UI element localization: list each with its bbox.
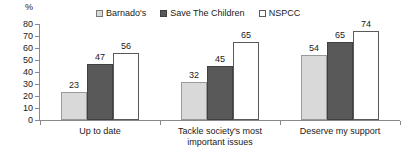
x-axis-separator-tick — [400, 121, 401, 125]
chart-legend: Barnado's Save The Children NSPCC — [96, 6, 396, 20]
y-axis-tick-mark — [35, 60, 39, 61]
x-axis-category-labels: Up to dateTackle society's mostimportant… — [40, 126, 400, 154]
bar-value-label: 47 — [83, 53, 117, 62]
x-axis-line — [39, 120, 400, 121]
bar-value-label: 56 — [109, 42, 143, 51]
bar-value-label: 45 — [203, 55, 237, 64]
y-axis-tick-label: 60 — [23, 44, 33, 53]
bar[interactable] — [207, 66, 233, 120]
plot-area: 234756324565546574 — [40, 24, 400, 120]
y-axis-tick-label: 70 — [23, 32, 33, 41]
bar[interactable] — [301, 55, 327, 120]
bar-group: 324565 — [181, 24, 259, 120]
x-axis-category-label-line: Deserve my support — [280, 126, 400, 137]
bar-chart: % Barnado's Save The Children NSPCC 8070… — [0, 0, 411, 155]
bar[interactable] — [113, 53, 139, 120]
legend-item-save-the-children[interactable]: Save The Children — [160, 8, 244, 18]
x-axis-category-label-line: important issues — [160, 137, 280, 148]
legend-swatch-save-the-children-icon — [160, 10, 167, 17]
x-axis-separator-tick — [40, 121, 41, 125]
y-axis-tick-mark — [35, 120, 39, 121]
legend-item-barnados[interactable]: Barnado's — [96, 8, 146, 18]
bar-value-label: 74 — [349, 20, 383, 29]
bar-value-label: 54 — [297, 44, 331, 53]
bar-group: 234756 — [61, 24, 139, 120]
y-axis-tick-mark — [35, 84, 39, 85]
y-axis-tick-mark — [35, 24, 39, 25]
bar[interactable] — [87, 64, 113, 120]
bar-group: 546574 — [301, 24, 379, 120]
legend-swatch-barnados-icon — [96, 10, 103, 17]
legend-item-nspcc[interactable]: NSPCC — [259, 8, 301, 18]
bar-value-label: 23 — [57, 81, 91, 90]
y-axis-tick-label: 50 — [23, 56, 33, 65]
legend-label-nspcc: NSPCC — [269, 8, 301, 18]
x-axis-separator-tick — [280, 121, 281, 125]
y-axis-tick-labels: 80706050403020100 — [0, 0, 33, 155]
y-axis-tick-mark — [35, 108, 39, 109]
y-axis-tick-mark — [35, 48, 39, 49]
x-axis-category-label: Deserve my support — [280, 126, 400, 137]
x-axis-category-label-line: Tackle society's most — [160, 126, 280, 137]
legend-label-save-the-children: Save The Children — [170, 8, 244, 18]
x-axis-category-label-line: Up to date — [40, 126, 160, 137]
bar[interactable] — [327, 42, 353, 120]
bar-value-label: 65 — [229, 31, 263, 40]
bar[interactable] — [181, 82, 207, 120]
y-axis-tick-label: 20 — [23, 92, 33, 101]
y-axis-tick-mark — [35, 36, 39, 37]
y-axis-tick-mark — [35, 72, 39, 73]
bar[interactable] — [233, 42, 259, 120]
bar[interactable] — [61, 92, 87, 120]
y-axis-tick-label: 0 — [28, 116, 33, 125]
y-axis-tick-label: 80 — [23, 20, 33, 29]
x-axis-category-label: Tackle society's mostimportant issues — [160, 126, 280, 148]
bar[interactable] — [353, 31, 379, 120]
x-axis-category-label: Up to date — [40, 126, 160, 137]
y-axis-tick-label: 40 — [23, 68, 33, 77]
x-axis-separator-tick — [160, 121, 161, 125]
y-axis-tick-label: 30 — [23, 80, 33, 89]
y-axis-tick-label: 10 — [23, 104, 33, 113]
bar-value-label: 32 — [177, 71, 211, 80]
y-axis-tick-mark — [35, 96, 39, 97]
legend-label-barnados: Barnado's — [106, 8, 146, 18]
bar-value-label: 65 — [323, 31, 357, 40]
legend-swatch-nspcc-icon — [259, 10, 266, 17]
